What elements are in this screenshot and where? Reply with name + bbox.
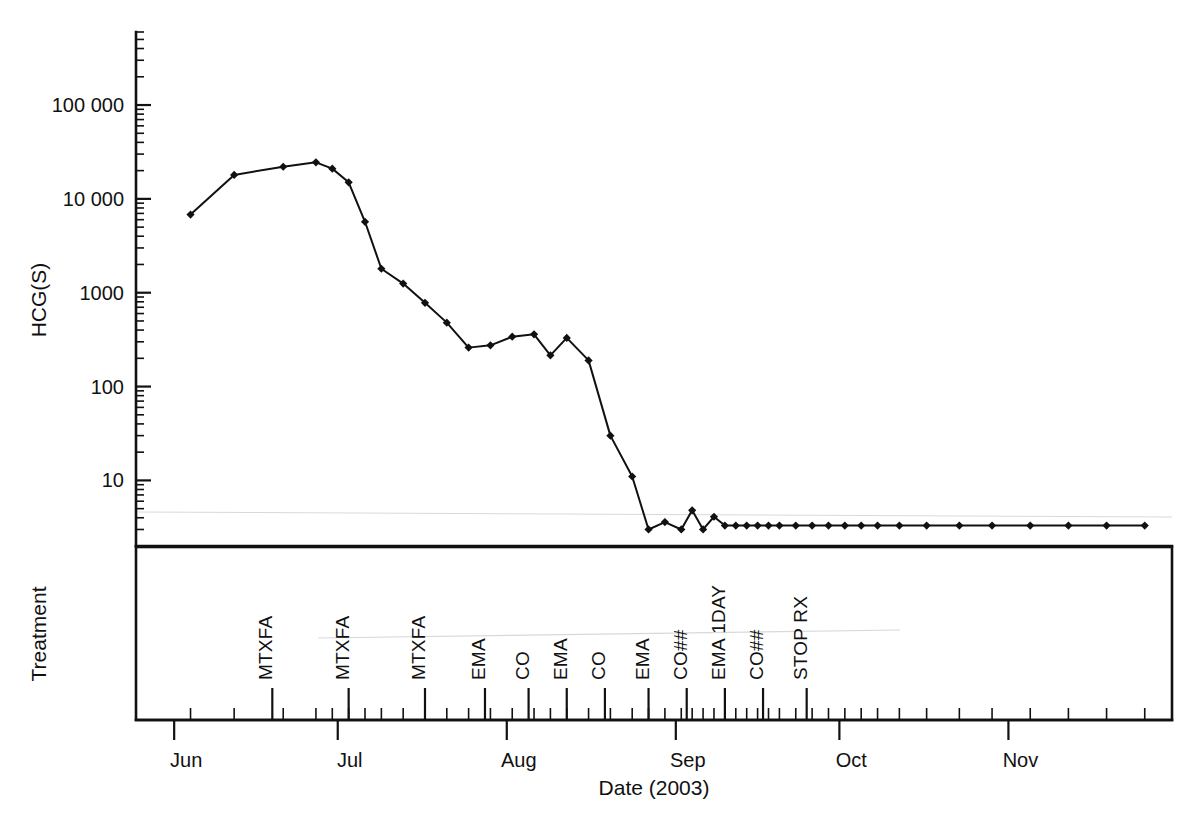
data-point-marker bbox=[792, 521, 800, 529]
data-point-marker bbox=[361, 218, 369, 226]
data-point-marker bbox=[312, 158, 320, 166]
treatment-label: EMA 1DAY bbox=[708, 585, 729, 680]
hcg-series-line bbox=[191, 162, 1145, 529]
chart-svg: 100 00010 000100010010 HCG(S) Treatment … bbox=[0, 0, 1200, 828]
treatment-labels: MTXFAMTXFAMTXFAEMACOEMACOEMACO##EMA 1DAY… bbox=[255, 585, 810, 680]
treatment-label: EMA bbox=[632, 638, 653, 680]
data-point-marker bbox=[508, 333, 516, 341]
data-point-marker bbox=[688, 506, 696, 514]
data-point-marker bbox=[644, 525, 652, 533]
treatment-label: CO## bbox=[670, 629, 691, 680]
data-point-marker bbox=[1026, 521, 1034, 529]
x-axis-title: Date (2003) bbox=[599, 776, 710, 799]
treatment-tick-marks bbox=[272, 688, 806, 720]
chart-figure: 100 00010 000100010010 HCG(S) Treatment … bbox=[0, 0, 1200, 828]
data-point-marker bbox=[486, 341, 494, 349]
data-point-marker bbox=[988, 521, 996, 529]
y-tick-label: 100 bbox=[91, 376, 124, 398]
x-tick-label: Aug bbox=[501, 749, 537, 771]
y-tick-label: 100 000 bbox=[52, 94, 124, 116]
treatment-label: CO bbox=[588, 651, 609, 680]
hcg-panel: 100 00010 000100010010 HCG(S) bbox=[27, 32, 1172, 546]
treatment-label: CO bbox=[512, 651, 533, 680]
treatment-label: STOP RX bbox=[790, 596, 811, 680]
data-point-marker bbox=[955, 521, 963, 529]
treatment-label: MTXFA bbox=[255, 616, 276, 680]
x-axis: JunJulAugSepOctNov Date (2003) bbox=[136, 708, 1172, 799]
x-axis-tick-labels: JunJulAugSepOctNov bbox=[170, 749, 1038, 771]
y-tick-label: 10 000 bbox=[63, 188, 124, 210]
data-point-marker bbox=[857, 521, 865, 529]
treatment-label: EMA bbox=[550, 638, 571, 680]
data-point-marker bbox=[895, 521, 903, 529]
data-point-marker bbox=[808, 521, 816, 529]
y-tick-label: 10 bbox=[102, 469, 124, 491]
data-point-marker bbox=[1064, 521, 1072, 529]
data-point-marker bbox=[743, 521, 751, 529]
y-axis-ticks bbox=[136, 32, 151, 546]
y-tick-label: 1000 bbox=[80, 282, 125, 304]
x-tick-label: Jul bbox=[337, 749, 363, 771]
x-tick-label: Sep bbox=[670, 749, 706, 771]
treatment-label: CO## bbox=[746, 629, 767, 680]
data-point-marker bbox=[775, 521, 783, 529]
x-tick-label: Nov bbox=[1003, 749, 1039, 771]
scan-artifact-group bbox=[138, 512, 1172, 638]
data-point-marker bbox=[1102, 521, 1110, 529]
x-tick-label: Oct bbox=[836, 749, 868, 771]
treatment-label: MTXFA bbox=[332, 616, 353, 680]
data-point-marker bbox=[661, 518, 669, 526]
data-point-marker bbox=[677, 525, 685, 533]
data-point-marker bbox=[732, 521, 740, 529]
treatment-panel: Treatment MTXFAMTXFAMTXFAEMACOEMACOEMACO… bbox=[27, 547, 1172, 720]
y-axis-tick-labels: 100 00010 000100010010 bbox=[52, 94, 124, 491]
data-point-marker bbox=[824, 521, 832, 529]
data-point-marker bbox=[754, 521, 762, 529]
data-point-marker bbox=[279, 163, 287, 171]
treatment-axis-title: Treatment bbox=[27, 586, 50, 681]
hcg-series-markers bbox=[186, 158, 1148, 533]
data-point-marker bbox=[923, 521, 931, 529]
data-point-marker bbox=[764, 521, 772, 529]
y-axis-title: HCG(S) bbox=[27, 263, 50, 338]
data-point-marker bbox=[628, 472, 636, 480]
treatment-label: EMA bbox=[468, 638, 489, 680]
data-point-marker bbox=[606, 432, 614, 440]
treatment-label: MTXFA bbox=[408, 616, 429, 680]
data-point-marker bbox=[841, 521, 849, 529]
data-point-marker bbox=[1141, 521, 1149, 529]
x-tick-label: Jun bbox=[170, 749, 202, 771]
x-axis-ticks bbox=[174, 708, 1145, 740]
data-point-marker bbox=[873, 521, 881, 529]
